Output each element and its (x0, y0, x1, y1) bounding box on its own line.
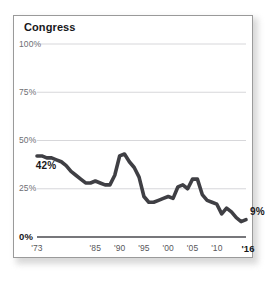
x-axis-tick-label: '95 (133, 243, 155, 253)
x-axis-tick-label: '16 (237, 243, 259, 254)
x-axis-tick-label: '73 (26, 243, 48, 253)
x-axis-tick-label: '05 (182, 243, 204, 253)
data-line (37, 154, 246, 222)
series-group (37, 154, 246, 222)
figure-container: Congress 100%75%50%25%0%'73'85'90'95'00'… (0, 0, 270, 282)
x-axis-tick-label: '85 (84, 243, 106, 253)
end-value-annotation: 9% (250, 206, 265, 217)
line-chart-svg (14, 16, 254, 259)
y-axis-tick-label: 0% (19, 231, 33, 242)
y-axis-tick-label: 25% (19, 183, 36, 193)
x-axis-tick-label: '10 (206, 243, 228, 253)
y-axis-tick-label: 50% (19, 135, 36, 145)
y-axis-tick-label: 75% (19, 87, 36, 97)
gridlines (37, 44, 246, 237)
plot-area (14, 16, 254, 259)
x-axis-tick-label: '90 (109, 243, 131, 253)
y-axis-tick-label: 100% (19, 39, 41, 49)
start-value-annotation: 42% (36, 160, 56, 171)
chart-panel: Congress 100%75%50%25%0%'73'85'90'95'00'… (13, 15, 253, 258)
x-axis-tick-label: '00 (157, 243, 179, 253)
